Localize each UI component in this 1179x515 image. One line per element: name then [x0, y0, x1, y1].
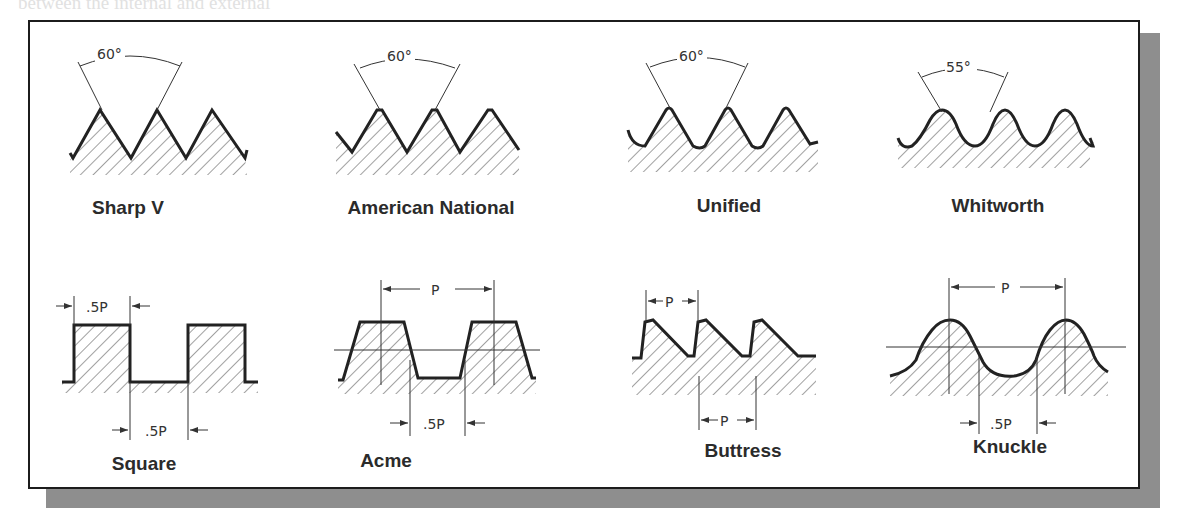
whitworth-thread-profile: 55° [898, 58, 1095, 168]
label-sharp-v: Sharp V [92, 197, 164, 219]
knuckle-half-pitch-label: .5P [990, 416, 1012, 432]
square-pitch-top-label: .5P [86, 299, 108, 315]
label-unified: Unified [697, 195, 761, 217]
label-whitworth: Whitworth [952, 195, 1045, 217]
buttress-pitch-bottom-label: P [720, 413, 728, 429]
square-thread-profile: .5P .5P [56, 296, 258, 440]
label-acme: Acme [360, 450, 412, 472]
label-square: Square [112, 453, 176, 475]
sharp-v-angle-label: 60° [97, 46, 122, 62]
acme-pitch-label: P [431, 282, 439, 298]
acme-half-pitch-label: .5P [423, 416, 445, 432]
buttress-thread-profile: P P [632, 290, 816, 430]
square-pitch-bottom-label: .5P [145, 423, 167, 439]
knuckle-thread-profile: P .5P [886, 278, 1126, 434]
unified-angle-label: 60° [679, 48, 704, 64]
sharp-v-thread-profile: 60° [70, 46, 247, 175]
acme-thread-profile: P .5P [334, 280, 540, 436]
american-national-thread-profile: 60° [336, 48, 519, 175]
american-national-angle-label: 60° [387, 48, 412, 64]
whitworth-angle-label: 55° [946, 59, 971, 75]
label-american-national: American National [348, 197, 515, 219]
label-knuckle: Knuckle [973, 436, 1047, 458]
label-buttress: Buttress [704, 440, 781, 462]
buttress-pitch-top-label: P [665, 294, 673, 310]
unified-thread-profile: 60° [628, 48, 818, 172]
knuckle-pitch-label: P [1001, 280, 1009, 296]
